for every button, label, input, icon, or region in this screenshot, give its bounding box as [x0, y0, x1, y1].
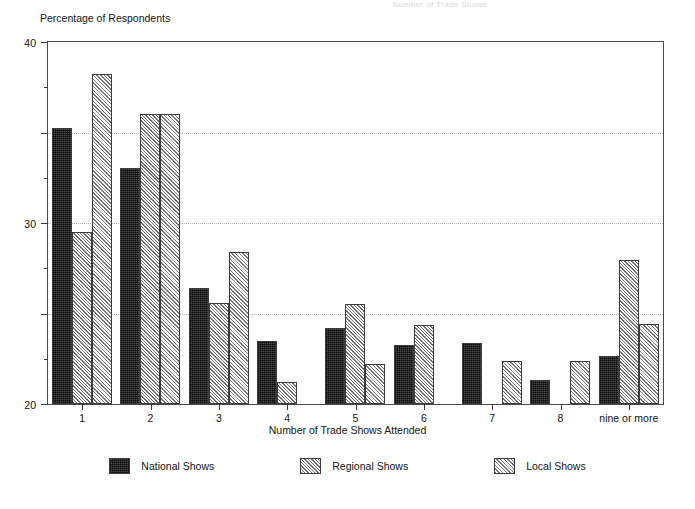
chart-canvas: 01020304012345678nine or more [48, 42, 663, 404]
bar-group [595, 42, 663, 404]
bar-national-shows[interactable] [52, 128, 72, 404]
x-axis-tick [219, 404, 220, 410]
y-axis-tick: 20 [41, 223, 48, 224]
light-diagonal-swatch [300, 458, 321, 474]
legend-item-label: Regional Shows [332, 460, 408, 472]
y-axis-tick: 40 [41, 42, 48, 43]
bar-regional-shows[interactable] [72, 232, 92, 404]
y-axis-tick: 10 [41, 314, 48, 315]
x-axis-tick-label: 8 [558, 412, 564, 424]
legend-item-label: Local Shows [526, 460, 586, 472]
bar-local-shows[interactable] [229, 252, 249, 404]
x-axis-tick-label: 2 [148, 412, 154, 424]
bar-national-shows[interactable] [120, 168, 140, 404]
bar-regional-shows[interactable] [140, 114, 160, 405]
x-axis-tick [287, 404, 288, 410]
bar-regional-shows[interactable] [619, 260, 639, 404]
x-axis-tick [151, 404, 152, 410]
x-axis-tick [561, 404, 562, 410]
bar-national-shows[interactable] [462, 343, 482, 404]
bar-national-shows[interactable] [325, 328, 345, 404]
bar-national-shows[interactable] [394, 345, 414, 404]
y-axis-tick-label: 20 [24, 399, 36, 411]
bar-national-shows[interactable] [257, 341, 277, 404]
bar-local-shows[interactable] [502, 361, 522, 404]
bar-regional-shows[interactable] [414, 325, 434, 404]
bar-national-shows[interactable] [530, 380, 550, 404]
bar-group [116, 42, 184, 404]
x-axis-tick-label: nine or more [599, 412, 658, 424]
x-axis-tick [424, 404, 425, 410]
x-axis-tick-label: 4 [284, 412, 290, 424]
chart-legend: National ShowsRegional ShowsLocal Shows [0, 458, 695, 474]
legend-item[interactable]: National Shows [109, 458, 214, 474]
y-axis-tick: 0 [41, 404, 48, 405]
dark-checker-swatch [109, 458, 130, 474]
x-axis-tick-label: 1 [79, 412, 85, 424]
bar-local-shows[interactable] [92, 74, 112, 404]
bar-local-shows[interactable] [160, 114, 180, 405]
x-axis-tick-label: 5 [353, 412, 359, 424]
bar-group [185, 42, 253, 404]
y-axis-tick-label: 40 [24, 37, 36, 49]
bar-local-shows[interactable] [570, 361, 590, 404]
y-axis-tick-label: 30 [24, 218, 36, 230]
cross-diagonal-swatch [494, 458, 515, 474]
bar-local-shows[interactable] [365, 364, 385, 404]
bar-group [253, 42, 321, 404]
bar-group [390, 42, 458, 404]
x-axis-tick-label: 3 [216, 412, 222, 424]
x-axis-tick [356, 404, 357, 410]
legend-item-label: National Shows [141, 460, 214, 472]
bar-group [458, 42, 526, 404]
bar-group [526, 42, 594, 404]
bar-regional-shows[interactable] [277, 382, 297, 404]
x-axis-tick [82, 404, 83, 410]
chart-plot-area: 01020304012345678nine or more [47, 41, 664, 405]
bar-regional-shows[interactable] [345, 304, 365, 404]
x-axis-tick-label: 6 [421, 412, 427, 424]
legend-item[interactable]: Regional Shows [300, 458, 408, 474]
y-axis-tick: 30 [41, 133, 48, 134]
x-axis-tick [629, 404, 630, 410]
cropped-chart-title: Number of Trade Shows [330, 0, 550, 9]
bar-national-shows[interactable] [599, 356, 619, 404]
bar-group [321, 42, 389, 404]
bar-regional-shows[interactable] [209, 303, 229, 404]
x-axis-title: Number of Trade Shows Attended [0, 424, 695, 436]
bar-local-shows[interactable] [639, 324, 659, 404]
x-axis-tick-label: 7 [489, 412, 495, 424]
bar-national-shows[interactable] [189, 288, 209, 404]
bar-group [48, 42, 116, 404]
legend-item[interactable]: Local Shows [494, 458, 586, 474]
x-axis-tick [492, 404, 493, 410]
y-axis-title: Percentage of Respondents [40, 12, 170, 24]
